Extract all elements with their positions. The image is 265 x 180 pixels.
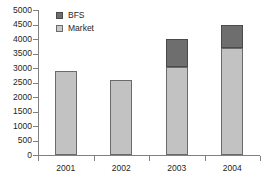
x-axis-category-label: 2004 — [207, 164, 257, 173]
y-axis-tick-label: 5000 — [13, 6, 32, 15]
y-axis-tick-label: 2000 — [13, 93, 32, 102]
legend-swatch-icon — [56, 25, 63, 32]
x-axis-category-label: 2003 — [152, 164, 202, 173]
legend-label: Market — [68, 23, 94, 34]
bar-segment-market[interactable] — [166, 67, 188, 155]
y-axis-tick-label: 4000 — [13, 35, 32, 44]
bar-group[interactable] — [110, 10, 132, 155]
y-axis-tick-label: 4500 — [13, 20, 32, 29]
y-axis-tick-label: 1500 — [13, 107, 32, 116]
x-axis-tick — [149, 156, 150, 161]
bar-segment-market[interactable] — [221, 48, 243, 155]
bar-segment-market[interactable] — [55, 71, 77, 155]
y-axis-tick-label: 500 — [18, 136, 32, 145]
bar-group[interactable] — [221, 10, 243, 155]
x-axis-category-label: 2002 — [96, 164, 146, 173]
x-axis-tick — [38, 156, 39, 161]
x-axis-category-label: 2001 — [41, 164, 91, 173]
x-axis-tick — [94, 156, 95, 161]
x-axis-tick — [205, 156, 206, 161]
bar-group[interactable] — [166, 10, 188, 155]
y-axis-tick-label: 0 — [27, 151, 32, 160]
bar-segment-bfs[interactable] — [221, 25, 243, 48]
y-axis-tick-label: 2500 — [13, 78, 32, 87]
y-axis-tick-label: 3000 — [13, 64, 32, 73]
y-axis-tick-label: 1000 — [13, 122, 32, 131]
y-axis-tick-label: 3500 — [13, 49, 32, 58]
bar-chart: 0500100015002000250030003500400045005000… — [0, 0, 265, 180]
chart-legend: BFSMarket — [56, 10, 94, 36]
legend-swatch-icon — [56, 12, 63, 19]
x-axis-tick — [260, 156, 261, 161]
legend-item[interactable]: Market — [56, 23, 94, 34]
bar-segment-bfs[interactable] — [166, 39, 188, 67]
legend-label: BFS — [68, 10, 85, 21]
bar-segment-market[interactable] — [110, 80, 132, 155]
legend-item[interactable]: BFS — [56, 10, 94, 21]
